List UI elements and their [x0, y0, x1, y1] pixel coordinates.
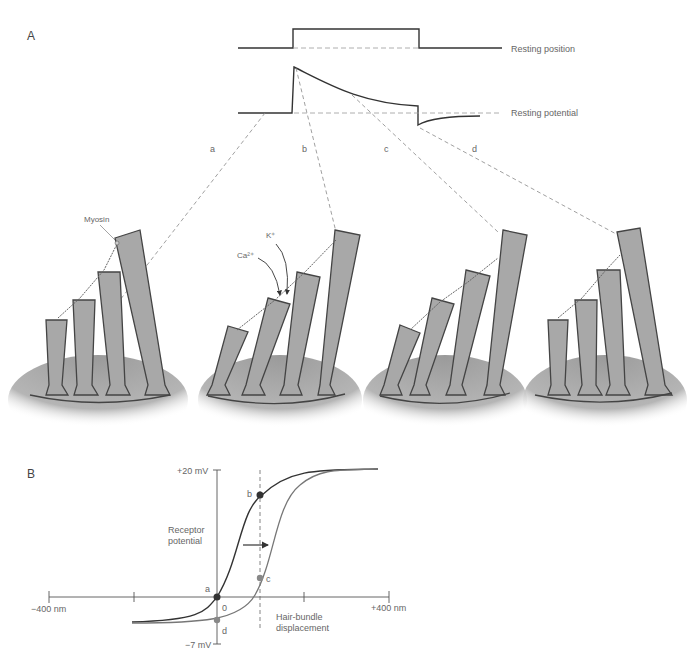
resting-potential-label: Resting potential — [511, 108, 578, 118]
y-axis-label-1: Receptor — [168, 525, 205, 535]
y-axis-label-2: potential — [168, 536, 202, 546]
adapted-curve — [132, 469, 378, 623]
x-axis-label-1: Hair-bundle — [276, 612, 323, 622]
panel-a-label: A — [27, 29, 35, 43]
point-c-label: c — [266, 574, 271, 584]
hair-bundle-d — [523, 228, 687, 445]
x-left-label: −400 nm — [31, 604, 66, 614]
myosin-label: Myosin — [84, 215, 109, 224]
hair-bundle-b — [198, 230, 362, 445]
x-axis-label-2: displacement — [276, 623, 330, 633]
x-right-label: +400 nm — [371, 603, 406, 613]
point-d-label: d — [222, 626, 227, 636]
hair-bundle-a — [8, 230, 188, 445]
resting-position-label: Resting position — [511, 44, 575, 54]
phase-label-a: a — [210, 144, 215, 154]
hair-bundle-c — [363, 230, 527, 445]
point-d — [214, 617, 220, 623]
point-c — [257, 575, 263, 581]
potassium-label: K⁺ — [266, 231, 275, 240]
phase-label-c: c — [384, 144, 389, 154]
point-b — [257, 492, 264, 499]
point-b-label: b — [247, 489, 252, 499]
point-a-label: a — [205, 584, 210, 594]
myosin-pointer — [100, 225, 115, 240]
y-bottom-label: −7 mV — [185, 640, 211, 650]
calcium-label: Ca²⁺ — [237, 251, 254, 260]
y-top-label: +20 mV — [177, 466, 208, 476]
origin-label: 0 — [222, 603, 227, 613]
point-a — [214, 594, 221, 601]
phase-label-d: d — [472, 144, 477, 154]
figure: A Resting position Resting potential a b… — [0, 0, 695, 664]
panel-b-label: B — [27, 467, 35, 481]
phase-label-b: b — [302, 144, 307, 154]
potential-trace — [238, 67, 502, 125]
connector-lines — [120, 68, 618, 300]
position-trace — [238, 29, 502, 48]
